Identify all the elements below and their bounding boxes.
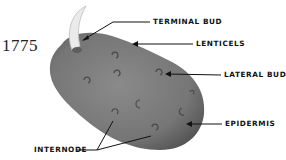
- potato-diagram: [0, 0, 286, 160]
- label-terminal-bud: TERMINAL BUD: [153, 18, 222, 26]
- label-internode: INTERNODE: [34, 146, 87, 154]
- label-lateral-bud: LATERAL BUD: [224, 71, 286, 79]
- label-epidermis: EPIDERMIS: [225, 120, 275, 128]
- label-lenticels: LENTICELS: [196, 40, 245, 48]
- figure-number: 1775: [2, 36, 38, 56]
